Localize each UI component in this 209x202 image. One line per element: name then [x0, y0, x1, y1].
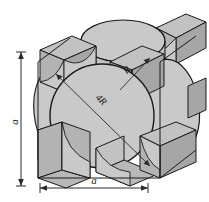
- dimension-label-horizontal-a: a: [91, 174, 97, 186]
- dimension-vertical-a: [16, 52, 26, 186]
- dimension-label-vertical-a: a: [8, 119, 20, 125]
- fcc-unit-cell-svg: a a 4R R: [0, 0, 209, 202]
- fcc-unit-cell-figure: a a 4R R: [0, 0, 209, 202]
